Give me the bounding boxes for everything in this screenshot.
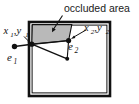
x1y1-label-x: x (3, 25, 9, 36)
e2-label-sub: 2 (74, 46, 78, 55)
figure-root: occluded area x 1 ,y 1 x 2 ,y 2 e 1 e 2 (0, 0, 139, 104)
lower-vertex-marker (65, 57, 69, 61)
e1-label-sub: 1 (13, 57, 17, 66)
x1y1-label-sub2: 1 (25, 31, 29, 39)
e1-endpoint-marker (12, 44, 17, 49)
x2y2-label-mid: ,y (94, 22, 102, 33)
x2y2-label-x: x (83, 22, 89, 33)
x1y1-label-mid: ,y (14, 25, 22, 36)
x2y2-label-sub2: 2 (106, 28, 110, 36)
e2-label-base: e (68, 40, 73, 52)
occlusion-diagram: occluded area x 1 ,y 1 x 2 ,y 2 e 1 e 2 (0, 0, 139, 104)
callout-label: occluded area (64, 2, 130, 14)
e1-label-base: e (7, 51, 12, 63)
